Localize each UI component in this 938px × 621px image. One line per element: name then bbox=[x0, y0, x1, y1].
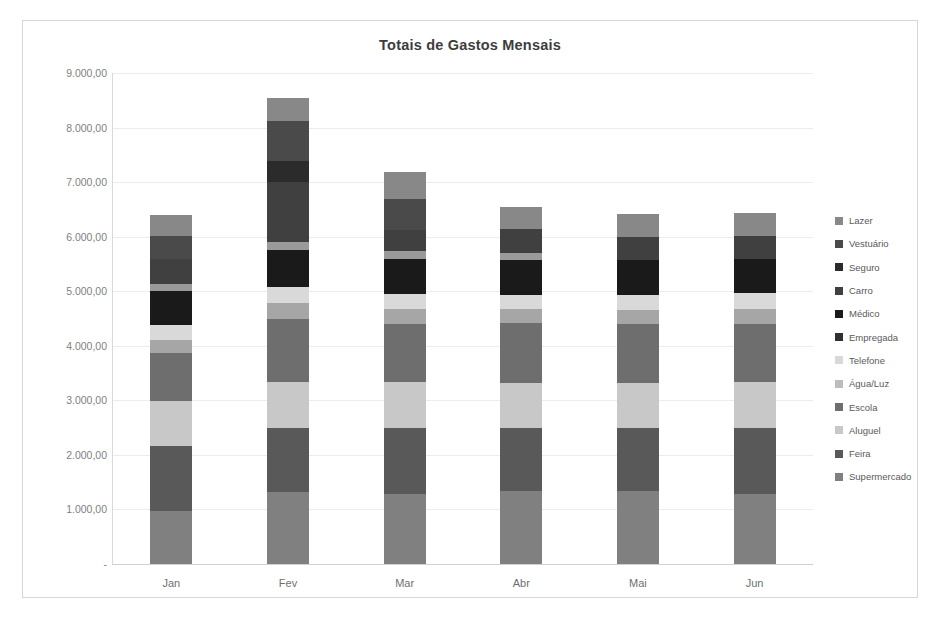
bar-segment[interactable] bbox=[267, 182, 309, 242]
bar-segment[interactable] bbox=[617, 428, 659, 492]
bar-segment[interactable] bbox=[617, 310, 659, 324]
bar-segment[interactable] bbox=[150, 284, 192, 291]
legend-item-label: Empregada bbox=[849, 332, 898, 343]
legend-item[interactable]: Lazer bbox=[835, 209, 938, 232]
bar-segment[interactable] bbox=[734, 259, 776, 294]
bar-column[interactable] bbox=[697, 73, 813, 564]
legend-item[interactable]: Feira bbox=[835, 442, 938, 465]
x-axis-tick-label: Abr bbox=[463, 577, 579, 589]
legend-item[interactable]: Empregada bbox=[835, 325, 938, 348]
bar-column[interactable] bbox=[463, 73, 579, 564]
bar-segment[interactable] bbox=[617, 214, 659, 237]
legend-item[interactable]: Médico bbox=[835, 302, 938, 325]
bar-segment[interactable] bbox=[500, 323, 542, 383]
bar-segment[interactable] bbox=[267, 161, 309, 182]
bar-segment[interactable] bbox=[617, 324, 659, 383]
bar-segment[interactable] bbox=[734, 494, 776, 564]
legend-item[interactable]: Supermercado bbox=[835, 465, 938, 488]
legend-item[interactable]: Aluguel bbox=[835, 419, 938, 442]
legend-swatch-icon bbox=[835, 333, 843, 341]
bar-column[interactable] bbox=[580, 73, 696, 564]
bar-segment[interactable] bbox=[267, 287, 309, 303]
bar-segment[interactable] bbox=[617, 295, 659, 310]
bar-segment[interactable] bbox=[384, 382, 426, 427]
bar-segment[interactable] bbox=[384, 199, 426, 230]
bar-segment[interactable] bbox=[150, 291, 192, 325]
bar-segment[interactable] bbox=[500, 491, 542, 564]
bar-segment[interactable] bbox=[734, 213, 776, 235]
bar-segment[interactable] bbox=[734, 309, 776, 324]
legend-swatch-icon bbox=[835, 287, 843, 295]
stacked-bar[interactable] bbox=[734, 213, 776, 564]
bar-segment[interactable] bbox=[734, 428, 776, 495]
bar-segment[interactable] bbox=[500, 383, 542, 427]
stacked-bar[interactable] bbox=[500, 207, 542, 564]
bar-series-group bbox=[113, 73, 813, 564]
x-axis-tick-label: Fev bbox=[230, 577, 346, 589]
bar-segment[interactable] bbox=[267, 428, 309, 492]
bar-segment[interactable] bbox=[384, 324, 426, 382]
y-axis-tick-label: 4.000,00 bbox=[31, 340, 107, 352]
x-axis-tick-label: Jan bbox=[113, 577, 229, 589]
bar-segment[interactable] bbox=[384, 294, 426, 309]
bar-segment[interactable] bbox=[384, 494, 426, 564]
bar-segment[interactable] bbox=[617, 491, 659, 564]
bar-segment[interactable] bbox=[267, 250, 309, 287]
bar-segment[interactable] bbox=[384, 172, 426, 199]
stacked-bar[interactable] bbox=[617, 214, 659, 564]
bar-segment[interactable] bbox=[500, 428, 542, 491]
stacked-bar[interactable] bbox=[150, 215, 192, 564]
chart-legend: LazerVestuárioSeguroCarroMédicoEmpregada… bbox=[835, 209, 938, 489]
x-axis-tick-label: Jun bbox=[697, 577, 813, 589]
bar-segment[interactable] bbox=[734, 382, 776, 427]
bar-segment[interactable] bbox=[150, 511, 192, 564]
bar-segment[interactable] bbox=[384, 428, 426, 494]
bar-segment[interactable] bbox=[267, 98, 309, 121]
legend-item[interactable]: Água/Luz bbox=[835, 372, 938, 395]
legend-swatch-icon bbox=[835, 310, 843, 318]
bar-segment[interactable] bbox=[150, 446, 192, 510]
bar-segment[interactable] bbox=[734, 236, 776, 259]
legend-swatch-icon bbox=[835, 356, 843, 364]
legend-item[interactable]: Carro bbox=[835, 279, 938, 302]
bar-segment[interactable] bbox=[384, 230, 426, 252]
bar-segment[interactable] bbox=[617, 260, 659, 295]
bar-segment[interactable] bbox=[500, 260, 542, 295]
bar-segment[interactable] bbox=[267, 242, 309, 250]
bar-segment[interactable] bbox=[500, 253, 542, 260]
bar-segment[interactable] bbox=[500, 207, 542, 229]
legend-item[interactable]: Vestuário bbox=[835, 232, 938, 255]
bar-segment[interactable] bbox=[384, 259, 426, 294]
bar-segment[interactable] bbox=[734, 293, 776, 308]
bar-segment[interactable] bbox=[150, 353, 192, 401]
bar-column[interactable] bbox=[230, 73, 346, 564]
bar-segment[interactable] bbox=[384, 251, 426, 259]
stacked-bar[interactable] bbox=[384, 172, 426, 564]
bar-segment[interactable] bbox=[384, 309, 426, 324]
bar-column[interactable] bbox=[113, 73, 229, 564]
legend-swatch-icon bbox=[835, 426, 843, 434]
bar-segment[interactable] bbox=[150, 340, 192, 354]
legend-item[interactable]: Seguro bbox=[835, 256, 938, 279]
bar-segment[interactable] bbox=[150, 259, 192, 284]
bar-segment[interactable] bbox=[617, 237, 659, 259]
bar-segment[interactable] bbox=[150, 325, 192, 340]
bar-segment[interactable] bbox=[267, 382, 309, 428]
bar-segment[interactable] bbox=[734, 324, 776, 382]
bar-column[interactable] bbox=[347, 73, 463, 564]
bar-segment[interactable] bbox=[500, 309, 542, 323]
bar-segment[interactable] bbox=[267, 319, 309, 382]
bar-segment[interactable] bbox=[267, 492, 309, 564]
bar-segment[interactable] bbox=[500, 295, 542, 309]
bar-segment[interactable] bbox=[267, 121, 309, 161]
stacked-bar[interactable] bbox=[267, 98, 309, 564]
bar-segment[interactable] bbox=[150, 236, 192, 259]
bar-segment[interactable] bbox=[150, 215, 192, 236]
bar-segment[interactable] bbox=[267, 303, 309, 319]
legend-item[interactable]: Telefone bbox=[835, 349, 938, 372]
y-axis-tick-label: 1.000,00 bbox=[31, 503, 107, 515]
legend-item[interactable]: Escola bbox=[835, 395, 938, 418]
bar-segment[interactable] bbox=[150, 401, 192, 446]
bar-segment[interactable] bbox=[617, 383, 659, 428]
bar-segment[interactable] bbox=[500, 229, 542, 252]
